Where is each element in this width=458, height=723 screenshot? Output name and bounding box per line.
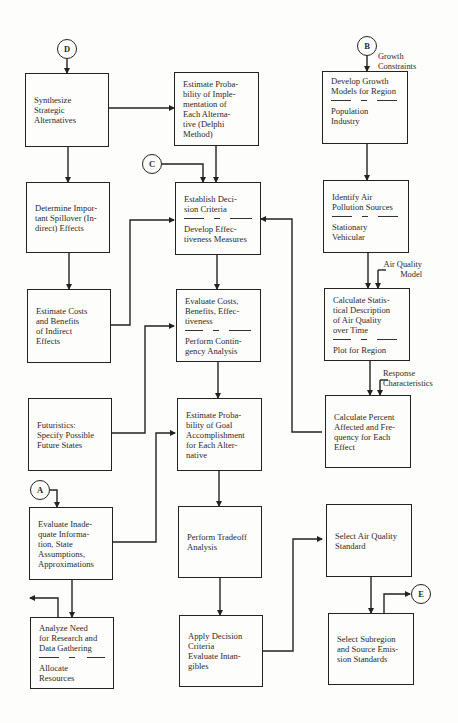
box-spillover-effects: Determine Impor- tant Spillover (In- dir… (26, 182, 110, 253)
connector-a: A (30, 480, 50, 500)
box-futuristics: Futuristics: Specify Possible Future Sta… (28, 398, 112, 471)
divider (331, 98, 399, 103)
box-text: Estimate Costs and Benefits of Indirect … (36, 306, 102, 346)
box-decision-criteria: Establish Deci- sion Criteria Develop Ef… (175, 182, 261, 255)
box-text: Synthesize Strategic Alternatives (34, 95, 100, 125)
box-text-bottom: Stationary Vehicular (332, 222, 400, 242)
box-text: Calculate Percent Affected and Fre- quen… (334, 412, 402, 452)
box-text-top: Calculate Statis- tical Description of A… (333, 295, 401, 335)
divider (184, 216, 252, 221)
box-text-bottom: Allocate Resources (39, 663, 105, 683)
divider (39, 655, 105, 660)
divider (185, 328, 252, 333)
label-air-quality-model: Air Quality Model (370, 260, 422, 280)
box-text: Futuristics: Specify Possible Future Sta… (37, 420, 103, 450)
label-growth-constraints: Growth Constraints (378, 52, 416, 72)
box-text: Apply Decision Criteria Evaluate Intan- … (188, 631, 254, 671)
box-text: Estimate Proba- bility of Goal Accomplis… (186, 410, 253, 460)
box-prob-implementation: Estimate Proba- bility of Imple- mentati… (174, 72, 259, 146)
box-text: Estimate Proba- bility of Imple- mentati… (183, 79, 250, 139)
box-apply-criteria: Apply Decision Criteria Evaluate Intan- … (179, 615, 263, 687)
connector-b: B (357, 36, 377, 56)
box-text: Evaluate Inade- quate Informa- tion, Sta… (38, 519, 104, 569)
box-text: Determine Impor- tant Spillover (In- dir… (35, 203, 101, 233)
box-prob-goal: Estimate Proba- bility of Goal Accomplis… (177, 398, 262, 471)
box-text-top: Identify Air Pollution Sources (332, 192, 400, 212)
box-text-bottom: Population Industry (331, 106, 399, 126)
box-text-top: Evaluate Costs, Benefits, Effec- tivenes… (185, 296, 252, 326)
box-text-bottom: Plot for Region (333, 345, 401, 355)
box-text-top: Establish Deci- sion Criteria (184, 194, 252, 214)
box-text: Select Subregion and Source Emis- sion S… (337, 634, 405, 664)
box-percent-affected: Calculate Percent Affected and Fre- quen… (325, 395, 411, 468)
box-statistical-description: Calculate Statis- tical Description of A… (324, 288, 410, 361)
box-subregion-standards: Select Subregion and Source Emis- sion S… (328, 613, 414, 685)
label-response-characteristics: Response Characteristics (383, 369, 433, 389)
divider (333, 337, 401, 342)
box-inadequate-information: Evaluate Inade- quate Informa- tion, Sta… (29, 507, 113, 580)
box-pollution-sources: Identify Air Pollution Sources Stationar… (323, 180, 409, 253)
box-air-quality-standard: Select Air Quality Standard (326, 504, 412, 577)
connector-e: E (411, 584, 431, 604)
box-text-top: Develop Growth Models for Region (331, 76, 399, 96)
box-synthesize-alternatives: Synthesize Strategic Alternatives (25, 73, 109, 147)
box-evaluate-costs: Evaluate Costs, Benefits, Effec- tivenes… (176, 289, 261, 362)
connector-d: D (57, 39, 77, 59)
box-text-bottom: Develop Effec- tiveness Measures (184, 224, 252, 244)
box-tradeoff-analysis: Perform Tradeoff Analysis (178, 506, 262, 578)
box-research-need: Analyze Need for Research and Data Gathe… (30, 617, 114, 689)
connector-c: C (142, 154, 162, 174)
divider (332, 214, 400, 219)
box-growth-models: Develop Growth Models for Region Populat… (322, 71, 408, 144)
box-indirect-costs: Estimate Costs and Benefits of Indirect … (27, 289, 111, 363)
box-text-top: Analyze Need for Research and Data Gathe… (39, 623, 105, 653)
box-text: Perform Tradeoff Analysis (187, 532, 253, 552)
box-text: Select Air Quality Standard (335, 531, 403, 551)
box-text-bottom: Perform Contin- gency Analysis (185, 336, 252, 356)
